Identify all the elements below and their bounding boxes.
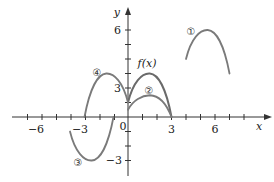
- x-axis-arrow-icon: [264, 114, 272, 120]
- x-tick-label-3: 3: [168, 123, 175, 136]
- y-tick-label-6: 6: [114, 24, 121, 37]
- curve-3-label: ③: [74, 157, 83, 168]
- y-axis: [125, 7, 131, 176]
- x-tick-label-neg6: −6: [28, 123, 44, 136]
- f-curve-label: f(x): [137, 57, 157, 70]
- x-axis-label: x: [256, 120, 263, 133]
- y-tick-label-neg3: −3: [106, 154, 122, 167]
- function-transformation-graph: −6 −3 0 3 6 x 6 3 −3 y f(x) ① ② ③ ④: [0, 0, 274, 182]
- y-axis-arrow-icon: [125, 7, 131, 15]
- curve-2: [128, 95, 172, 117]
- curve-2-label: ②: [145, 85, 154, 96]
- x-axis: [12, 114, 272, 120]
- origin-label: 0: [120, 120, 127, 133]
- curve-1-label: ①: [187, 26, 196, 37]
- x-tick-label-neg3: −3: [72, 123, 88, 136]
- curve-4: [85, 73, 129, 117]
- y-axis-label: y: [113, 6, 121, 19]
- x-tick-label-6: 6: [212, 123, 219, 136]
- curve-4-label: ④: [93, 67, 102, 78]
